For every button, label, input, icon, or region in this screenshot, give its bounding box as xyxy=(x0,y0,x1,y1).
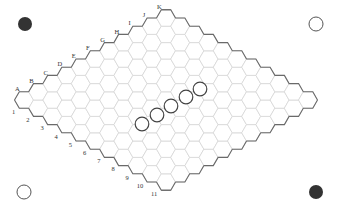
row-label-9: 9 xyxy=(126,174,129,181)
column-label-E: E xyxy=(72,52,76,59)
corner-marker-bottom-right-black xyxy=(309,185,323,199)
row-label-4: 4 xyxy=(55,133,59,140)
column-label-J: J xyxy=(143,11,146,18)
column-label-D: D xyxy=(58,60,63,67)
column-label-G: G xyxy=(100,36,105,43)
row-label-5: 5 xyxy=(69,141,72,148)
row-label-11: 11 xyxy=(151,190,157,197)
column-label-B: B xyxy=(29,77,34,84)
corner-marker-top-right-white xyxy=(309,17,323,31)
corner-marker-bottom-left-white xyxy=(17,185,31,199)
board-cells[interactable] xyxy=(15,10,318,190)
row-label-2: 2 xyxy=(26,116,29,123)
row-label-1: 1 xyxy=(12,108,15,115)
stone-white-3 xyxy=(164,99,178,113)
column-label-A: A xyxy=(15,85,20,92)
column-label-C: C xyxy=(43,69,47,76)
stone-white-5 xyxy=(193,82,207,96)
corner-marker-top-left-black xyxy=(18,17,32,31)
row-label-8: 8 xyxy=(111,165,114,172)
column-label-F: F xyxy=(86,44,90,51)
row-label-10: 10 xyxy=(137,182,144,189)
column-label-I: I xyxy=(129,19,131,26)
column-label-K: K xyxy=(157,3,162,10)
row-label-6: 6 xyxy=(83,149,87,156)
stone-white-2 xyxy=(150,108,164,122)
column-label-H: H xyxy=(114,28,119,35)
hex-board[interactable]: ABCDEFGHIJK1234567891011 xyxy=(0,0,340,213)
row-label-3: 3 xyxy=(40,124,43,131)
stone-white-4 xyxy=(179,90,193,104)
stone-white-1 xyxy=(135,117,149,131)
row-label-7: 7 xyxy=(97,157,101,164)
